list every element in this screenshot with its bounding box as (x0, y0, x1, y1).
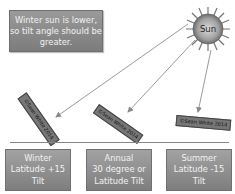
winter-title: Winter (11, 153, 65, 165)
annual-suffix: Latitude Tilt (92, 176, 145, 188)
winter-suffix: Tilt (11, 176, 65, 188)
annual-title: Annual (92, 153, 145, 165)
sun: Sun (185, 6, 231, 52)
winter-formula: Latitude +15 (11, 164, 65, 176)
sun-label: Sun (185, 6, 231, 52)
annual-formula: 30 degree or (92, 164, 145, 176)
summer-panel-watermark: ©Sean White 2014 (179, 117, 227, 127)
winter-note-box: Winter sun is lower, so tilt angle shoul… (9, 10, 103, 52)
annual-tilt-box: Annual 30 degree or Latitude Tilt (86, 149, 152, 191)
summer-suffix: Tilt (174, 176, 224, 188)
winter-note-text: Winter sun is lower, so tilt angle shoul… (10, 15, 102, 48)
ground-line (10, 142, 229, 143)
summer-tilt-box: Summer Latitude -15 Tilt (166, 149, 232, 191)
summer-title: Summer (174, 153, 224, 165)
summer-formula: Latitude -15 (174, 164, 224, 176)
winter-tilt-box: Winter Latitude +15 Tilt (5, 149, 71, 191)
